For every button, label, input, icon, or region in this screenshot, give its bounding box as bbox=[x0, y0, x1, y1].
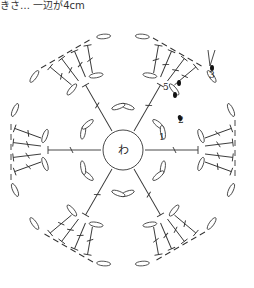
round-5-label: 5 bbox=[163, 82, 169, 92]
crochet-chart: わ 1 2 3 5 bbox=[0, 0, 254, 288]
round-1-label: 1 bbox=[159, 132, 165, 142]
hexagon-motif: わ 1 2 3 5 bbox=[10, 28, 236, 271]
round-3-label: 3 bbox=[209, 70, 215, 80]
round-2-label: 2 bbox=[178, 115, 184, 125]
magic-ring-label: わ bbox=[118, 144, 129, 157]
